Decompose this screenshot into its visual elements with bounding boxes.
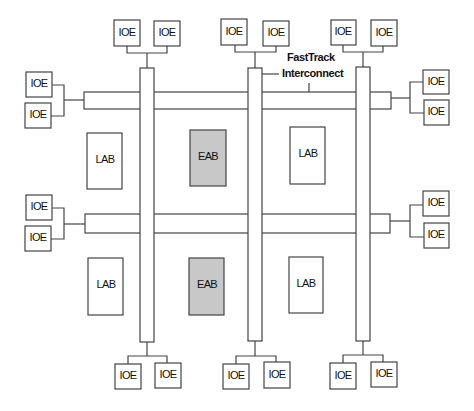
ioe-label: IOE bbox=[427, 196, 444, 208]
vertical-fasttrack-column-2 bbox=[248, 68, 262, 341]
ioe-group-left-upper: IOE IOE bbox=[25, 72, 84, 128]
eab-top: EAB bbox=[190, 130, 226, 186]
ioe-label: IOE bbox=[29, 231, 46, 243]
lab-label: LAB bbox=[96, 153, 115, 165]
lab-label: LAB bbox=[297, 277, 316, 289]
lab-bottom-left: LAB bbox=[88, 258, 123, 315]
horizontal-fasttrack-row-2 bbox=[85, 214, 390, 233]
fasttrack-label: FastTrack bbox=[287, 51, 336, 63]
eab-label: EAB bbox=[197, 278, 217, 290]
ioe-label: IOE bbox=[29, 108, 46, 120]
fasttrack-interconnect-annotation: FastTrack Interconnect bbox=[262, 51, 344, 92]
lab-bottom-right: LAB bbox=[289, 257, 323, 313]
fasttrack-architecture-diagram: LAB LAB LAB LAB EAB EAB IOE IOE IOE IOE bbox=[0, 0, 474, 411]
ioe-label: IOE bbox=[375, 26, 392, 38]
lab-top-right: LAB bbox=[290, 127, 325, 184]
ioe-label: IOE bbox=[159, 368, 176, 380]
ioe-group-top-right: IOE IOE bbox=[331, 20, 397, 67]
ioe-group-bottom-left: IOE IOE bbox=[115, 342, 181, 389]
ioe-label: IOE bbox=[427, 75, 444, 87]
ioe-label: IOE bbox=[225, 25, 242, 37]
lab-label: LAB bbox=[299, 147, 318, 159]
vertical-fasttrack-column-3 bbox=[356, 67, 370, 341]
ioe-label: IOE bbox=[427, 228, 444, 240]
ioe-group-bottom-middle: IOE IOE bbox=[223, 341, 290, 389]
ioe-label: IOE bbox=[118, 26, 135, 38]
vertical-fasttrack-column-1 bbox=[140, 68, 154, 342]
ioe-label: IOE bbox=[30, 77, 47, 89]
ioe-label: IOE bbox=[119, 369, 136, 381]
ioe-label: IOE bbox=[375, 367, 392, 379]
ioe-group-top-middle: IOE IOE bbox=[221, 19, 289, 68]
ioe-label: IOE bbox=[427, 105, 444, 117]
ioe-group-right-lower: IOE IOE bbox=[390, 191, 449, 248]
ioe-group-top-left: IOE IOE bbox=[114, 20, 180, 68]
lab-top-left: LAB bbox=[87, 133, 122, 189]
ioe-label: IOE bbox=[334, 25, 351, 37]
ioe-label: IOE bbox=[268, 368, 285, 380]
ioe-label: IOE bbox=[158, 26, 175, 38]
ioe-label: IOE bbox=[227, 369, 244, 381]
ioe-label: IOE bbox=[267, 26, 284, 38]
ioe-label: IOE bbox=[334, 369, 351, 381]
eab-bottom: EAB bbox=[189, 258, 224, 315]
ioe-group-left-lower: IOE IOE bbox=[25, 195, 85, 251]
lab-label: LAB bbox=[97, 278, 116, 290]
ioe-group-bottom-right: IOE IOE bbox=[330, 341, 397, 389]
eab-label: EAB bbox=[198, 150, 218, 162]
horizontal-fasttrack-row-1 bbox=[84, 92, 391, 109]
ioe-label: IOE bbox=[30, 200, 47, 212]
ioe-group-right-upper: IOE IOE bbox=[391, 70, 449, 125]
interconnect-label: Interconnect bbox=[282, 67, 344, 79]
